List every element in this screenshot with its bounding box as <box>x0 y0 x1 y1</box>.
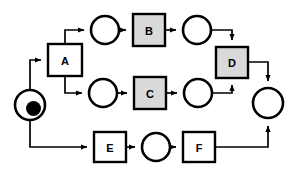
task-E-label: E <box>106 142 113 154</box>
node-start-place[interactable] <box>15 90 45 120</box>
edge-D-to-end <box>248 62 268 81</box>
edge-F-to-end <box>215 126 268 147</box>
edge-A-to-p3 <box>65 76 82 93</box>
task-B-label: B <box>145 25 153 37</box>
node-layer: A B C D <box>15 14 283 162</box>
token-dot-icon <box>26 101 41 116</box>
node-task-F[interactable]: F <box>183 132 215 162</box>
node-task-B[interactable]: B <box>133 14 165 46</box>
node-place-p3[interactable] <box>89 79 117 107</box>
workflow-diagram: A B C D <box>0 0 300 177</box>
edge-start-to-A <box>30 60 41 90</box>
node-task-E[interactable]: E <box>94 132 126 162</box>
node-place-p1[interactable] <box>91 16 119 44</box>
node-task-D[interactable]: D <box>216 47 248 78</box>
node-place-end[interactable] <box>253 88 283 118</box>
task-C-label: C <box>146 88 154 100</box>
node-place-p5[interactable] <box>142 133 170 161</box>
task-F-label: F <box>196 142 203 154</box>
edge-p2-to-D <box>211 30 232 40</box>
node-place-p2[interactable] <box>183 16 211 44</box>
node-place-p4[interactable] <box>184 79 212 107</box>
edge-p4-to-D <box>212 85 232 93</box>
task-A-label: A <box>61 55 69 67</box>
edge-start-to-E <box>30 120 87 147</box>
node-task-C[interactable]: C <box>134 77 166 109</box>
edge-A-to-p1 <box>65 30 84 44</box>
diagram-canvas: A B C D <box>0 0 300 177</box>
task-D-label: D <box>228 57 236 69</box>
node-task-A[interactable]: A <box>48 44 82 76</box>
